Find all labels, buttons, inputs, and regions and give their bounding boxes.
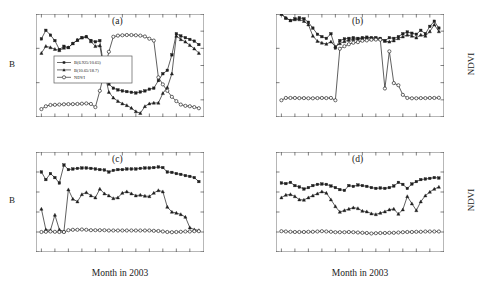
data-point [126,168,128,171]
data-point [76,228,79,231]
data-point [437,185,440,188]
data-point [170,231,173,234]
data-point [53,230,56,233]
data-point [285,182,288,185]
data-point [157,79,160,82]
data-point [103,169,106,172]
data-point [334,231,337,234]
y-axis-title: B [9,59,15,69]
data-point [197,107,200,110]
data-point [130,91,133,94]
data-point [280,14,283,15]
data-point [280,99,283,102]
data-point [298,186,301,189]
data-point [352,41,355,44]
data-point [316,183,319,186]
data-point [307,230,310,233]
data-point [438,177,441,180]
data-point [134,34,137,37]
data-point [388,186,391,189]
legend-label: B(6.925/10.65) [74,60,101,65]
data-point [148,229,151,232]
data-point [433,176,436,179]
y2-axis-title: NDVI [466,189,476,212]
data-point [170,95,173,98]
panel-label: (a) [112,16,123,26]
data-point [339,188,342,191]
data-point [433,96,436,99]
data-point [152,191,155,194]
data-point [45,29,48,32]
data-point [388,36,391,39]
data-point [406,230,409,233]
data-point [53,103,56,106]
data-point [134,229,137,232]
data-point [415,230,418,233]
data-point [179,103,182,106]
data-point [383,87,386,90]
data-point [334,99,337,102]
data-point [419,230,422,233]
data-point [71,228,74,231]
data-point [85,167,88,170]
data-point [356,41,359,44]
data-point [307,186,310,189]
data-point [121,229,124,232]
data-point [76,102,79,105]
data-point [402,183,405,186]
data-point [139,34,142,37]
data-point [89,229,92,232]
data-point [175,100,178,103]
data-point [311,34,314,37]
data-point [143,229,146,232]
data-point [94,229,97,232]
data-point [420,178,423,181]
chart-panel-b: 0.40.60.81−0.200.20.40.60.81JanFebMarApr… [276,14,444,117]
data-point [162,72,165,75]
data-point [329,40,332,43]
data-point [89,194,92,197]
data-point [433,20,436,23]
data-point [348,184,351,187]
data-point [112,87,115,90]
data-point [298,97,301,100]
series-NDVI [280,38,441,102]
data-point [188,105,191,108]
data-point [374,38,377,41]
data-point [316,230,319,233]
data-point [112,169,115,172]
data-point [121,34,124,37]
data-point [143,35,146,38]
data-point [193,106,196,109]
data-point [438,27,441,30]
data-point [193,176,196,179]
data-point [103,229,106,232]
data-point [347,230,350,233]
data-point [188,226,191,229]
data-point [406,195,409,198]
data-point [49,230,52,233]
data-point [303,188,306,191]
data-point [280,230,283,233]
data-point [53,213,56,216]
data-point [410,97,413,100]
y-axis-title: B [9,195,15,205]
data-point [89,102,92,105]
data-point [302,97,305,100]
data-point [338,231,341,234]
data-point [166,89,169,92]
series-line [281,40,438,101]
data-point [406,187,409,190]
data-point [44,105,47,108]
data-point [384,187,387,190]
data-point [99,39,102,42]
data-point [198,43,201,46]
data-point [193,230,196,233]
series-NDVI [280,230,441,236]
chart-panel-d: 0.50.60.70.80.9100.20.40.60.81JanFebMarA… [276,152,444,252]
data-point [388,231,391,234]
data-point [184,36,187,39]
data-point [428,190,431,193]
data-point [139,167,142,170]
data-point [112,229,115,232]
